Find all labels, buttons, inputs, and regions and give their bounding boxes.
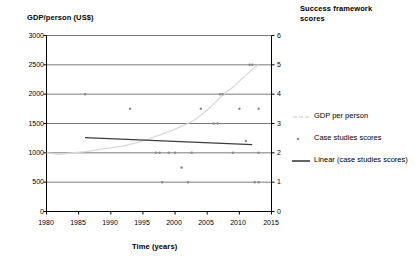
axis-ticks (44, 36, 275, 215)
chart-container: GDP/person (US$) Success framework score… (0, 0, 419, 266)
legend-dashed-line-icon (292, 112, 310, 122)
legend-label-case-studies: Case studies scores (314, 133, 382, 142)
linear-trend-line (85, 138, 252, 145)
legend-label-linear: Linear (case studies scores) (314, 155, 408, 164)
legend-label-gdp: GDP per person (314, 111, 368, 120)
legend-solid-line-icon (292, 156, 310, 166)
gridlines (47, 36, 272, 212)
legend-dot-icon (292, 134, 310, 144)
